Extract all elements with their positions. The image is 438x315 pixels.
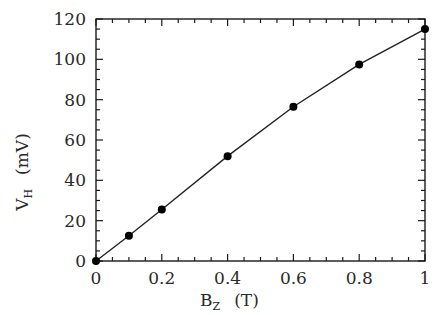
x-tick-label: 0.6 [280,268,307,288]
data-point [125,232,133,240]
y-axis-label: VH(mV) [12,133,35,212]
x-axis-label: BZ(T) [200,290,259,313]
series-line [96,29,425,261]
y-tick-label: 40 [64,170,86,190]
y-tick-label: 20 [64,211,86,231]
y-tick-label: 100 [54,49,86,69]
data-point [355,60,363,68]
data-point [289,103,297,111]
y-tick-label: 0 [75,251,86,271]
x-tick-label: 1 [420,268,431,288]
x-tick-label: 0.2 [148,268,175,288]
data-point [224,152,232,160]
y-tick-labels: 020406080100120 [54,9,86,271]
data-point [92,257,100,265]
x-tick-label: 0.4 [214,268,241,288]
chart: 00.20.40.60.81 020406080100120 BZ(T) VH(… [0,0,438,315]
y-tick-label: 120 [54,9,86,29]
data-point [421,25,429,33]
x-tick-label: 0 [91,268,102,288]
x-tick-label: 0.8 [346,268,373,288]
x-tick-labels: 00.20.40.60.81 [91,268,431,288]
data-point [158,206,166,214]
y-tick-label: 80 [64,90,86,110]
y-tick-label: 60 [64,130,86,150]
data-series [92,25,429,265]
